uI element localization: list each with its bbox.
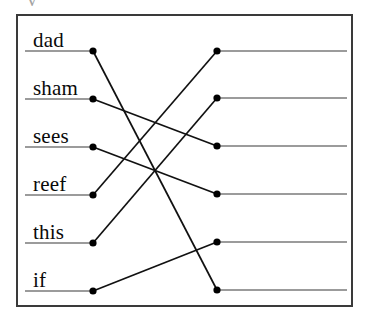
left-dot-sham[interactable]: [89, 95, 96, 102]
word-label-if: if: [33, 270, 46, 291]
word-label-dad: dad: [33, 30, 64, 51]
right-dot-3[interactable]: [213, 142, 220, 149]
right-dot-4[interactable]: [213, 190, 220, 197]
left-dot-sees[interactable]: [89, 143, 96, 150]
word-label-sham: sham: [33, 78, 78, 99]
left-dot-dad[interactable]: [89, 47, 96, 54]
diagram-frame: [17, 15, 352, 306]
right-dot-5[interactable]: [213, 238, 220, 245]
word-label-sees: sees: [33, 126, 69, 147]
word-label-reef: reef: [33, 174, 66, 195]
word-label-this: this: [33, 222, 64, 243]
right-dot-6[interactable]: [213, 286, 220, 293]
right-dot-1[interactable]: [213, 47, 220, 54]
word-matching-diagram: v dadshamseesreefthisif: [0, 0, 369, 320]
left-dot-reef[interactable]: [89, 191, 96, 198]
right-dot-2[interactable]: [213, 94, 220, 101]
left-dot-if[interactable]: [89, 287, 96, 294]
left-dot-this[interactable]: [89, 239, 96, 246]
